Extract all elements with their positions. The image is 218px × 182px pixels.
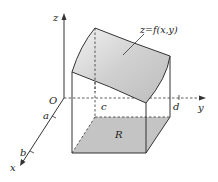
d-label: d xyxy=(173,101,179,112)
origin-label: O xyxy=(49,95,57,106)
y-axis-label: y xyxy=(197,102,204,113)
z-axis-label: z xyxy=(52,12,59,23)
b-label: b xyxy=(20,147,26,158)
a-label: a xyxy=(43,110,49,121)
x-axis-arrow-icon xyxy=(20,159,26,166)
diagram: z y x O a b c d R z=f(x,y) xyxy=(0,0,218,182)
surface xyxy=(72,28,170,103)
surface-label: z=f(x,y) xyxy=(139,24,178,35)
z-axis-arrow-icon xyxy=(62,13,67,20)
x-axis xyxy=(22,98,64,163)
y-axis-arrow-icon xyxy=(199,96,206,101)
region-label: R xyxy=(114,129,123,140)
x-axis-label: x xyxy=(10,162,16,173)
c-label: c xyxy=(101,101,107,112)
